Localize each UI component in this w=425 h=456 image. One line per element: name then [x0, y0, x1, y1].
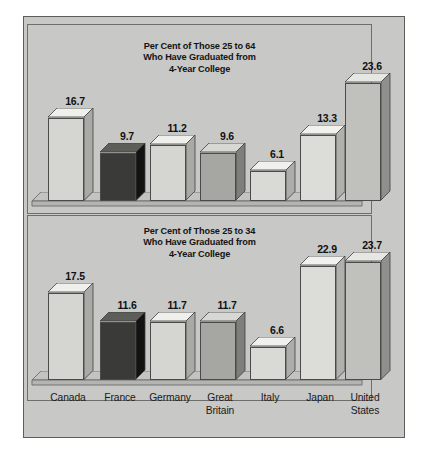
bar-front-face [200, 153, 236, 201]
plot-area-25-to-64: 16.79.711.29.66.113.323.6 [28, 25, 371, 213]
bar-value-label: 11.7 [196, 299, 259, 311]
bar-top-face [345, 73, 391, 83]
bar-united-states [345, 262, 381, 381]
bar-top-face [200, 312, 246, 322]
bar-top-face [345, 252, 391, 262]
bar-italy [250, 347, 286, 380]
category-label-line: States [330, 405, 400, 418]
bar-great-britain [200, 322, 236, 381]
bar-front-face [345, 83, 381, 201]
bar-france [100, 322, 136, 380]
bar-top-face [48, 283, 94, 293]
bar-value-label: 16.7 [44, 95, 107, 107]
category-label-line: Britain [185, 405, 255, 418]
bar-united-states [345, 83, 381, 201]
bar-value-label: 9.6 [196, 130, 259, 142]
bar-front-face [345, 262, 381, 381]
bar-top-face [100, 312, 146, 322]
chart-panel-25-to-64: Per Cent of Those 25 to 64 Who Have Grad… [27, 24, 372, 214]
bar-japan [300, 266, 336, 381]
bar-germany [150, 322, 186, 381]
bar-top-face [150, 312, 196, 322]
chart-panel-25-to-34: Per Cent of Those 25 to 34 Who Have Grad… [27, 215, 372, 401]
bar-top-face [250, 161, 296, 171]
bar-front-face [100, 322, 136, 380]
category-axis-labels: CanadaFranceGermanyGreatBritainItalyJapa… [27, 392, 372, 432]
bar-italy [250, 171, 286, 202]
bar-top-face [48, 108, 94, 118]
bar-top-face [150, 135, 196, 145]
bar-top-face [200, 143, 246, 153]
bar-canada [48, 118, 84, 202]
bar-value-label: 17.5 [44, 270, 107, 282]
bar-front-face [300, 135, 336, 202]
bar-top-face [250, 337, 296, 347]
bar-front-face [100, 153, 136, 202]
bar-front-face [250, 347, 286, 380]
plot-area-25-to-34: 17.511.611.711.76.622.923.7 [28, 216, 371, 400]
bar-top-face [300, 125, 346, 135]
bar-top-face [300, 256, 346, 266]
bar-front-face [48, 118, 84, 202]
category-label-line: United [330, 392, 400, 405]
bar-value-label: 23.6 [341, 60, 404, 72]
bar-front-face [48, 293, 84, 381]
category-label-united-states: UnitedStates [330, 392, 400, 417]
bar-front-face [250, 171, 286, 202]
bar-top-face [100, 143, 146, 153]
bar-japan [300, 135, 336, 202]
bar-front-face [200, 322, 236, 381]
bar-germany [150, 145, 186, 201]
bar-front-face [150, 322, 186, 381]
bar-canada [48, 293, 84, 381]
bar-france [100, 153, 136, 202]
bar-front-face [300, 266, 336, 381]
chart-figure: Per Cent of Those 25 to 64 Who Have Grad… [0, 0, 425, 456]
bar-great-britain [200, 153, 236, 201]
bar-front-face [150, 145, 186, 201]
bar-value-label: 23.7 [341, 239, 404, 251]
